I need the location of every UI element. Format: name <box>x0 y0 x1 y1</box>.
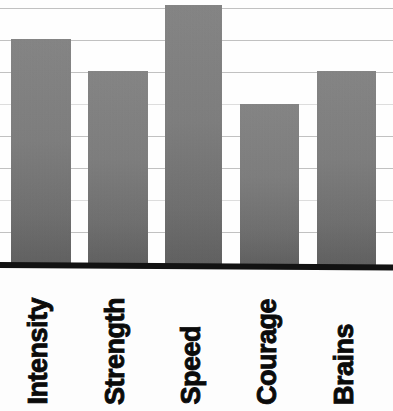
x-axis-line <box>0 262 393 270</box>
category-label-brains: Brains <box>331 324 358 405</box>
bar-chart: IntensityStrengthSpeedCourageBrains <box>0 0 393 411</box>
bar-speed[interactable] <box>165 5 222 265</box>
category-labels: IntensityStrengthSpeedCourageBrains <box>0 272 393 411</box>
bar-intensity[interactable] <box>11 39 71 265</box>
plot-area <box>0 0 393 266</box>
bar-brains[interactable] <box>317 71 376 265</box>
category-label-speed: Speed <box>178 326 205 405</box>
category-label-strength: Strength <box>102 298 129 405</box>
category-label-courage: Courage <box>254 299 281 405</box>
bar-courage[interactable] <box>240 104 299 265</box>
bar-strength[interactable] <box>88 71 148 265</box>
category-label-intensity: Intensity <box>25 298 52 405</box>
